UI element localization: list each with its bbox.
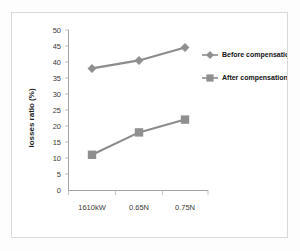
chart-figure: 50 45 40 35 30 25 20 15 10 5 0 [0, 0, 300, 251]
x-tick-label: 0.75N [175, 203, 195, 212]
square-marker-icon [135, 128, 143, 136]
chart-frame-border: 50 45 40 35 30 25 20 15 10 5 0 [11, 12, 288, 238]
y-tick-label: 40 [53, 58, 61, 67]
y-tick-label: 15 [53, 138, 61, 147]
square-marker-icon [88, 151, 96, 159]
y-tick-label: 5 [57, 170, 61, 179]
diamond-marker-icon [206, 51, 214, 59]
series-line-after-compensation [92, 120, 185, 155]
y-tick-label: 25 [53, 106, 61, 115]
y-tick-label: 30 [53, 90, 61, 99]
legend-item-after-compensation[interactable]: After compensation [202, 74, 287, 82]
y-tick-label: 10 [53, 154, 61, 163]
x-tick-label: 0.65N [129, 203, 149, 212]
y-tick-label: 0 [57, 186, 61, 195]
y-tick-label: 50 [53, 26, 61, 35]
x-tick-label: 1610kW [78, 203, 106, 212]
line-chart-plot: 50 45 40 35 30 25 20 15 10 5 0 [12, 13, 287, 237]
diamond-marker-icon [181, 43, 190, 52]
x-axis-ticks: 1610kW 0.65N 0.75N [78, 203, 195, 212]
diamond-marker-icon [135, 56, 144, 65]
legend-item-before-compensation[interactable]: Before compensation [202, 51, 287, 59]
y-axis-ticks: 50 45 40 35 30 25 20 15 10 5 0 [53, 26, 61, 195]
series-before-compensation [88, 43, 190, 73]
y-tick-label: 35 [53, 74, 61, 83]
diamond-marker-icon [88, 64, 97, 73]
y-tick-label: 45 [53, 42, 61, 51]
chart-legend: Before compensation After compensation [202, 51, 287, 82]
square-marker-icon [206, 74, 213, 81]
legend-label: After compensation [222, 74, 287, 82]
square-marker-icon [181, 115, 189, 123]
legend-label: Before compensation [222, 51, 287, 59]
y-axis-title: losses ratio (%) [27, 88, 36, 147]
series-after-compensation [88, 115, 189, 159]
y-tick-label: 20 [53, 122, 61, 131]
